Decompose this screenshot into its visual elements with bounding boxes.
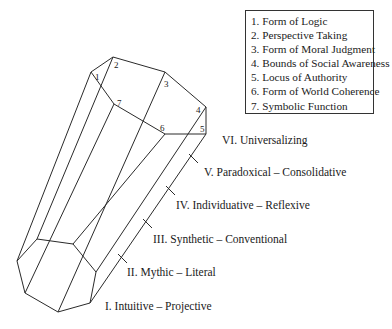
legend-item: 7. Symbolic Function (251, 99, 373, 113)
legend-item: 4. Bounds of Social Awareness (251, 56, 373, 70)
bottom-face (17, 239, 96, 312)
legend-item: 5. Locus of Authority (251, 70, 373, 84)
face-number-5: 5 (200, 124, 205, 134)
face-number-3: 3 (164, 79, 169, 89)
stage-tick (189, 154, 198, 163)
legend-item: 3. Form of Moral Judgment (251, 42, 373, 56)
stage-label-5: V. Paradoxical – Consolidative (204, 166, 346, 178)
stage-label-1: I. Intuitive – Projective (105, 300, 212, 312)
lateral-edge (37, 57, 113, 239)
face-number-4: 4 (196, 105, 201, 115)
face-number-6: 6 (160, 123, 165, 133)
stage-label-3: III. Synthetic – Conventional (153, 233, 287, 245)
stage-label-6: VI. Universalizing (222, 134, 308, 146)
legend-box: 1. Form of Logic 2. Perspective Taking 3… (245, 10, 374, 114)
face-number-2: 2 (114, 60, 119, 70)
stage-label-2: II. Mythic – Literal (127, 266, 216, 278)
legend-item: 1. Form of Logic (251, 14, 373, 28)
lateral-edge (17, 72, 91, 261)
legend-item: 6. Form of World Coherence (251, 84, 373, 98)
face-number-1: 1 (95, 72, 100, 82)
face-number-7: 7 (117, 98, 122, 108)
legend-item: 2. Perspective Taking (251, 28, 373, 42)
stage-label-4: IV. Individuative – Reflexive (176, 199, 310, 211)
